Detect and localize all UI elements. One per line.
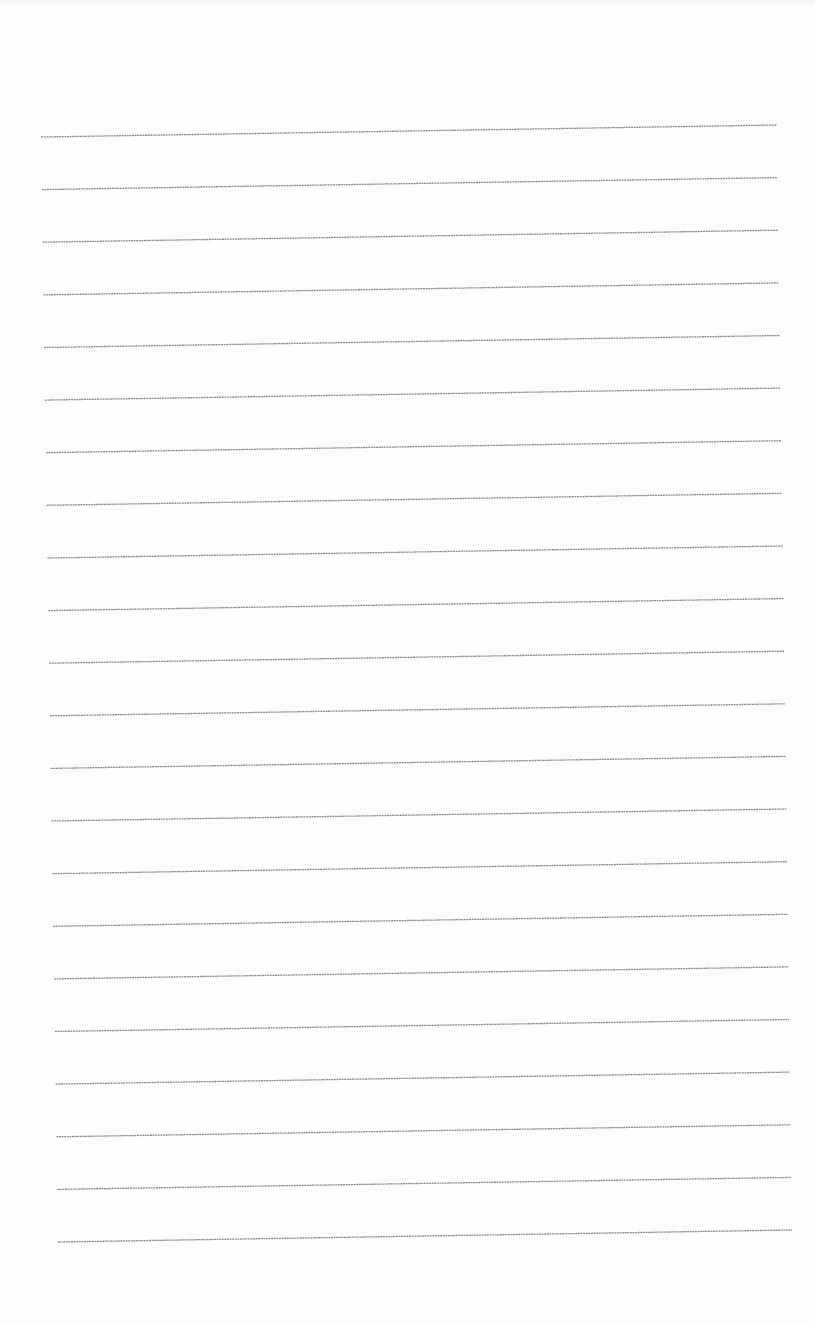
ruled-line: [55, 1020, 789, 1032]
ruled-line: [58, 1230, 792, 1242]
ruled-lines: [0, 0, 815, 1323]
lined-paper-page: [0, 0, 815, 1323]
ruled-line: [50, 704, 785, 716]
ruled-line: [43, 230, 779, 242]
ruled-line: [48, 599, 783, 611]
ruled-line: [45, 388, 781, 400]
ruled-line: [56, 1072, 790, 1084]
ruled-line: [42, 178, 778, 190]
ruled-line: [56, 1125, 790, 1137]
ruled-line: [52, 809, 787, 821]
ruled-line: [57, 1177, 791, 1189]
ruled-line: [49, 651, 784, 663]
ruled-line: [51, 756, 786, 768]
ruled-line: [52, 862, 787, 874]
ruled-line: [48, 546, 783, 558]
ruled-line: [44, 336, 780, 348]
ruled-line: [53, 914, 788, 926]
ruled-line: [47, 493, 782, 505]
ruled-line: [46, 441, 781, 453]
ruled-line: [43, 283, 779, 295]
ruled-line: [54, 967, 788, 979]
ruled-line: [41, 125, 777, 137]
